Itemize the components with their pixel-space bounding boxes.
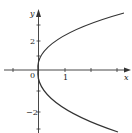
y-tick-label-neg2: −2 xyxy=(26,108,38,117)
origin-label: 0 xyxy=(30,71,35,80)
x-tick-label-1: 1 xyxy=(63,73,68,82)
y-axis-label: y xyxy=(29,9,35,18)
x-axis-arrow-icon xyxy=(124,68,131,73)
x-axis xyxy=(4,68,131,73)
x-axis-label: x xyxy=(124,73,129,82)
y-axis-arrow-icon xyxy=(36,9,41,17)
parabola-curve xyxy=(38,13,124,132)
y-tick-label-2: 2 xyxy=(30,37,35,46)
parabola-plot: y x 0 1 2 −2 xyxy=(0,0,132,133)
